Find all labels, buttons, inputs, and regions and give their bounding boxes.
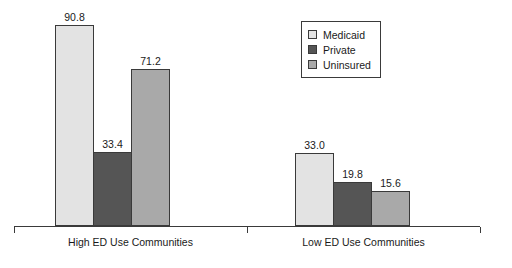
bar-chart: 90.8 33.4 71.2 33.0 19.8 15.6 High ED Us…	[0, 0, 512, 268]
bar-value-group1-uninsured: 71.2	[131, 55, 170, 67]
bar-group1-private	[93, 152, 132, 226]
legend-item-uninsured: Uninsured	[308, 57, 371, 72]
axis-tick-center	[247, 227, 248, 233]
legend: Medicaid Private Uninsured	[301, 21, 381, 78]
bar-group1-uninsured	[131, 69, 170, 226]
bar-value-group1-medicaid: 90.8	[55, 11, 94, 23]
legend-item-private: Private	[308, 42, 371, 57]
axis-tick-right	[480, 227, 481, 233]
legend-swatch-icon-uninsured	[308, 60, 317, 69]
legend-swatch-icon-medicaid	[308, 30, 317, 39]
legend-label-medicaid: Medicaid	[323, 29, 365, 41]
bar-group2-medicaid	[295, 153, 334, 226]
legend-label-uninsured: Uninsured	[323, 59, 371, 71]
bar-group2-uninsured	[371, 191, 410, 226]
bar-value-group2-uninsured: 15.6	[371, 177, 410, 189]
legend-item-medicaid: Medicaid	[308, 27, 371, 42]
bar-value-group2-private: 19.8	[333, 168, 372, 180]
bar-group1-medicaid	[55, 25, 94, 226]
axis-tick-left	[14, 227, 15, 233]
axis-label-high-ed-use-communities: High ED Use Communities	[14, 236, 247, 249]
legend-swatch-icon-private	[308, 45, 317, 54]
plot-area: 90.8 33.4 71.2 33.0 19.8 15.6 High ED Us…	[0, 0, 512, 268]
bar-value-group1-private: 33.4	[93, 138, 132, 150]
axis-label-low-ed-use-communities: Low ED Use Communities	[247, 236, 480, 249]
legend-label-private: Private	[323, 44, 356, 56]
bar-group2-private	[333, 182, 372, 226]
bar-value-group2-medicaid: 33.0	[295, 139, 334, 151]
